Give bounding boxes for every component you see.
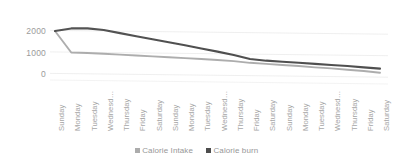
x-axis-tick-label: Thursday [237,99,245,131]
x-axis: SundayMondayTuesdayWednesd…ThursdayFrida… [0,0,393,167]
chart-legend: Calorie IntakeCalorie burn [0,146,393,155]
x-axis-tick-label: Tuesday [91,101,99,131]
legend-item-label: Calorie burn [213,146,258,155]
x-axis-tick-label: Sunday [286,105,294,131]
x-axis-tick-label: Tuesday [204,101,212,131]
x-axis-tick-label: Sunday [172,105,180,131]
x-axis-tick-label: Monday [74,103,82,131]
square-marker [135,148,140,153]
legend-item[interactable]: Calorie burn [206,146,258,155]
x-axis-tick-label: Monday [188,103,196,131]
x-axis-tick-label: Tuesday [318,101,326,131]
x-axis-tick-label: Saturday [383,100,391,131]
x-axis-tick-label: Sunday [58,105,66,131]
legend-item[interactable]: Calorie Intake [135,146,193,155]
line-chart: 010002000 SundayMondayTuesdayWednesd…Thu… [0,0,393,167]
x-axis-tick-label: Monday [302,103,310,131]
x-axis-tick-label: Saturday [156,100,164,131]
x-axis-tick-label: Thursday [123,99,131,131]
x-axis-tick-label: Wednesd… [221,91,229,131]
x-axis-tick-label: Wednesd… [334,91,342,131]
x-axis-tick-label: Friday [367,109,375,131]
square-marker [206,148,211,153]
x-axis-tick-label: Thursday [351,99,359,131]
x-axis-tick-label: Friday [253,109,261,131]
legend-item-label: Calorie Intake [142,146,193,155]
x-axis-tick-label: Friday [139,109,147,131]
x-axis-tick-label: Wednesd… [107,91,115,131]
x-axis-tick-label: Saturday [269,100,277,131]
